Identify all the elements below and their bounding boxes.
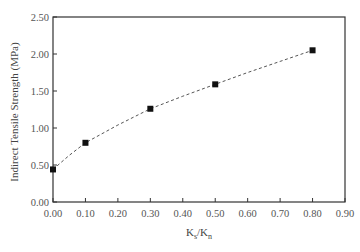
data-point bbox=[147, 106, 153, 112]
x-tick-label: 0.60 bbox=[238, 208, 256, 219]
plot-area bbox=[50, 17, 345, 202]
x-tick-label: 0.00 bbox=[44, 208, 62, 219]
y-tick-label: 0.50 bbox=[31, 160, 49, 171]
data-point bbox=[310, 47, 316, 53]
y-tick-label: 1.00 bbox=[31, 123, 49, 134]
data-point bbox=[50, 166, 56, 172]
x-tick-label: 0.80 bbox=[303, 208, 321, 219]
x-tick-label: 0.30 bbox=[141, 208, 159, 219]
x-tick-label: 0.70 bbox=[271, 208, 289, 219]
x-axis: 0.000.100.200.300.400.500.600.700.800.90 bbox=[44, 198, 354, 219]
y-tick-label: 1.50 bbox=[31, 86, 49, 97]
plot-frame bbox=[53, 17, 345, 202]
x-tick-label: 0.90 bbox=[336, 208, 354, 219]
y-tick-label: 0.00 bbox=[31, 197, 49, 208]
y-axis-title: Indirect Tensile Strength (MPa) bbox=[8, 42, 21, 182]
y-tick-label: 2.50 bbox=[31, 12, 49, 23]
chart: 0.000.501.001.502.002.50 0.000.100.200.3… bbox=[0, 0, 360, 252]
data-point bbox=[82, 140, 88, 146]
trend-line bbox=[53, 50, 313, 169]
data-point bbox=[212, 81, 218, 87]
y-tick-label: 2.00 bbox=[31, 49, 49, 60]
x-axis-title: Ks/Kn bbox=[186, 226, 212, 241]
x-tick-label: 0.10 bbox=[76, 208, 94, 219]
x-tick-label: 0.50 bbox=[206, 208, 224, 219]
x-tick-label: 0.40 bbox=[174, 208, 192, 219]
x-tick-label: 0.20 bbox=[109, 208, 127, 219]
